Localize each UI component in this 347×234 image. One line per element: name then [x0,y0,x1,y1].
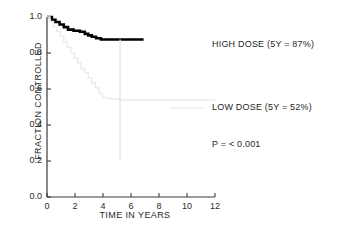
x-tick-label: 0 [35,201,59,211]
kaplan-meier-figure: 0.00.20.40.60.81.0 024681012 TIME IN YEA… [0,0,347,234]
series-layer [47,17,215,100]
y-axis-title: FRACTION CONTROLLED [33,16,43,186]
axes-layer [47,17,215,197]
x-axis-title: TIME IN YEARS [60,210,210,220]
chart-canvas [0,0,347,234]
y-tick-label: 0.0 [16,191,42,201]
low-dose-annotation: LOW DOSE (5Y = 52%) [212,102,312,112]
high-dose-annotation: HIGH DOSE (5Y = 87%) [212,39,314,49]
p-value-annotation: P = < 0.001 [212,139,261,149]
